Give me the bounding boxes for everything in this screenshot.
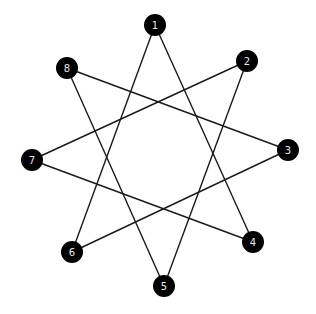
node-8: 8 xyxy=(56,57,78,79)
edge-2-5 xyxy=(164,61,247,286)
node-label: 1 xyxy=(152,20,158,31)
node-4: 4 xyxy=(242,231,264,253)
node-7: 7 xyxy=(21,149,43,171)
star-graph-diagram: 12345678 xyxy=(0,0,316,314)
node-label: 3 xyxy=(285,145,291,156)
node-6: 6 xyxy=(61,241,83,263)
edge-4-7 xyxy=(32,160,253,242)
node-label: 5 xyxy=(161,281,167,292)
node-3: 3 xyxy=(277,139,299,161)
node-1: 1 xyxy=(144,14,166,36)
node-label: 7 xyxy=(29,155,35,166)
node-label: 8 xyxy=(64,63,70,74)
node-label: 2 xyxy=(244,56,250,67)
edge-3-8 xyxy=(67,68,288,150)
node-label: 4 xyxy=(250,237,256,248)
node-2: 2 xyxy=(236,50,258,72)
node-5: 5 xyxy=(153,275,175,297)
node-label: 6 xyxy=(69,247,75,258)
nodes-group: 12345678 xyxy=(21,14,299,297)
